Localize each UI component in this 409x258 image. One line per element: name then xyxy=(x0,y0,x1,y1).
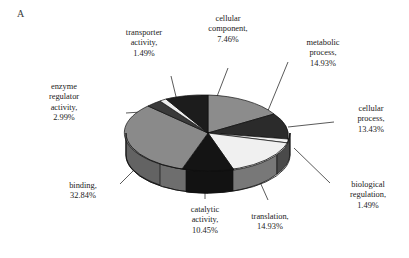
leader-line-biological-regulation xyxy=(294,148,330,183)
label-line: 10.45% xyxy=(168,226,242,236)
slice-label-transporter-activity: transporter activity, 1.49% xyxy=(105,28,183,59)
side-wall-catalytic-activity xyxy=(186,169,233,193)
label-line: catalytic xyxy=(168,205,242,215)
slice-label-cellular-process: cellular process, 13.43% xyxy=(337,104,405,135)
label-line: activity, xyxy=(168,215,242,225)
pie-top-face xyxy=(124,95,288,172)
label-line: biological xyxy=(330,180,406,190)
label-line: cellular xyxy=(337,104,405,114)
label-line: regulator xyxy=(28,92,100,102)
leader-line-metabolic-process xyxy=(267,62,288,113)
slice-label-translation: translation, 14.93% xyxy=(232,212,308,233)
label-line: 13.43% xyxy=(337,125,405,135)
label-line: 2.99% xyxy=(28,113,100,123)
slice-label-catalytic-activity: catalytic activity, 10.45% xyxy=(168,205,242,236)
label-line: binding, xyxy=(48,181,118,191)
label-line: translation, xyxy=(232,212,308,222)
label-line: transporter xyxy=(105,28,183,38)
figure-panel: A xyxy=(0,0,409,258)
leader-line-cellular-process xyxy=(288,122,334,127)
slice-label-binding: binding, 32.84% xyxy=(48,181,118,202)
label-line: enzyme xyxy=(28,82,100,92)
label-line: process, xyxy=(337,114,405,124)
slice-label-enzyme-regulator-activity: enzyme regulator activity, 2.99% xyxy=(28,82,100,124)
slice-label-metabolic-process: metabolic process, 14.93% xyxy=(284,38,362,69)
slice-label-cellular-component: cellular component, 7.46% xyxy=(185,14,271,45)
label-line: 7.46% xyxy=(185,35,271,45)
label-line: component, xyxy=(185,24,271,34)
label-line: 1.49% xyxy=(105,49,183,59)
label-line: regulation, xyxy=(330,190,406,200)
label-line: 32.84% xyxy=(48,191,118,201)
label-line: 1.49% xyxy=(330,201,406,211)
label-line: process, xyxy=(284,48,362,58)
label-line: activity, xyxy=(105,38,183,48)
label-line: activity, xyxy=(28,103,100,113)
label-line: 14.93% xyxy=(232,222,308,232)
label-line: cellular xyxy=(185,14,271,24)
slice-label-biological-regulation: biological regulation, 1.49% xyxy=(330,180,406,211)
label-line: 14.93% xyxy=(284,59,362,69)
label-line: metabolic xyxy=(284,38,362,48)
